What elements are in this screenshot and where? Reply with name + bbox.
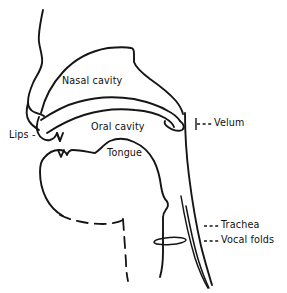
trachea-back-wall xyxy=(186,206,209,288)
neck-dashed-vertical xyxy=(123,219,128,281)
label-oral-cavity: Oral cavity xyxy=(91,122,145,132)
label-trachea: Trachea xyxy=(221,220,259,230)
upper-teeth-notch xyxy=(57,133,63,141)
label-vocal-folds: Vocal folds xyxy=(221,235,274,245)
label-lips: Lips - xyxy=(9,130,36,140)
tongue-outline xyxy=(44,139,168,277)
label-nasal-cavity: Nasal cavity xyxy=(62,76,122,86)
vocal-tract-illustration xyxy=(0,0,287,293)
label-tongue: Tongue xyxy=(107,148,142,158)
face-profile-outline xyxy=(28,10,44,116)
lower-jaw-inner xyxy=(40,158,63,216)
vocal-folds-ellipse xyxy=(154,236,186,245)
vocal-tract-diagram: Nasal cavity Oral cavity Tongue Lips - V… xyxy=(0,0,287,293)
jaw-neck-dashed-contour xyxy=(60,215,123,224)
label-velum: Velum xyxy=(214,118,245,128)
